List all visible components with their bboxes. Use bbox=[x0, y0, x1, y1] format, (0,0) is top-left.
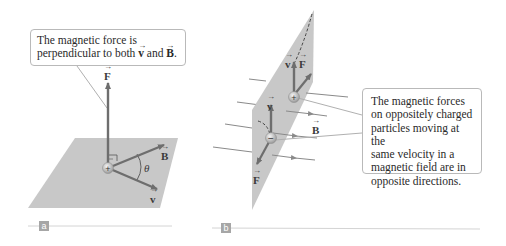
callout-a-line1: The magnetic force is bbox=[37, 34, 179, 47]
callout-a-and: and bbox=[144, 47, 166, 59]
label-theta: θ bbox=[144, 162, 149, 174]
rule-b bbox=[212, 228, 480, 229]
vector-B: B bbox=[166, 47, 174, 60]
label-F-negative: F bbox=[253, 174, 260, 186]
label-B-a: B bbox=[161, 150, 168, 162]
plane-b bbox=[252, 10, 314, 210]
callout-a-pointer bbox=[77, 66, 107, 108]
callout-a-period: . bbox=[174, 47, 177, 59]
charge-sign-positive: + bbox=[291, 93, 296, 103]
panel-tag-a: a bbox=[39, 221, 49, 231]
field-line bbox=[213, 147, 252, 152]
vector-v: v bbox=[138, 47, 144, 60]
label-v-positive: v bbox=[285, 58, 291, 70]
callout-b-line: magnetic field are in bbox=[371, 161, 473, 174]
field-line bbox=[225, 124, 252, 128]
callout-b-line: on oppositely charged bbox=[371, 108, 473, 121]
label-F-positive: F bbox=[299, 58, 306, 70]
callout-b-line: particles moving at the bbox=[371, 122, 473, 149]
label-B-b: B bbox=[312, 124, 319, 136]
panel-tag-b: b bbox=[221, 223, 231, 233]
field-line bbox=[272, 155, 315, 160]
charge-sign-negative: − bbox=[268, 133, 274, 144]
callout-a-text: perpendicular to both bbox=[37, 47, 138, 59]
label-v-a: v bbox=[150, 193, 156, 205]
callout-b-line: same velocity in a bbox=[371, 148, 473, 161]
charge-sign-a: + bbox=[105, 164, 110, 174]
field-line bbox=[306, 93, 348, 97]
callout-b-line: opposite directions. bbox=[371, 175, 473, 188]
field-line bbox=[249, 79, 266, 81]
label-F-a: F bbox=[104, 70, 111, 82]
callout-a-line2: perpendicular to both v and B. bbox=[37, 47, 179, 60]
callout-panel-b: The magnetic forces on oppositely charge… bbox=[362, 88, 482, 174]
callout-panel-a: The magnetic force is perpendicular to b… bbox=[30, 29, 186, 66]
callout-b-line: The magnetic forces bbox=[371, 95, 473, 108]
callout-b-pointer-positive bbox=[298, 98, 362, 115]
label-v-negative: v bbox=[267, 100, 273, 112]
